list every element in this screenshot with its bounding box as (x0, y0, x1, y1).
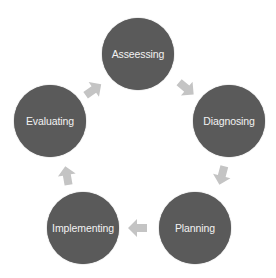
arrow-diagnosing-to-planning-icon (211, 164, 233, 187)
node-label: Asseessing (112, 48, 165, 60)
arrow-assessing-to-diagnosing-icon (173, 75, 199, 101)
node-planning: Planning (159, 192, 231, 264)
node-label: Evaluating (26, 115, 74, 127)
node-label: Planning (175, 222, 215, 234)
node-diagnosing: Diagnosing (193, 85, 265, 157)
node-assessing: Asseessing (102, 18, 174, 90)
node-label: Diagnosing (203, 115, 255, 127)
node-implementing: Implementing (47, 192, 119, 264)
arrow-planning-to-implementing-icon (128, 219, 147, 237)
arrow-evaluating-to-assessing-icon (80, 77, 106, 103)
node-evaluating: Evaluating (14, 85, 86, 157)
node-label: Implementing (52, 222, 114, 234)
arrow-implementing-to-evaluating-icon (56, 165, 77, 187)
